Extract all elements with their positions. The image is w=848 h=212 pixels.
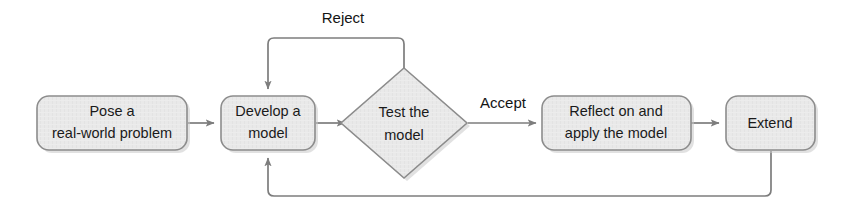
- node-label-line-2: apply the model: [565, 125, 667, 141]
- node-reflect-on-and-apply-the-model[interactable]: Reflect on and apply the model: [542, 96, 694, 153]
- edge-label-reject: Reject: [322, 9, 365, 26]
- node-label-line-1: Develop a: [235, 103, 301, 119]
- node-extend[interactable]: Extend: [726, 96, 818, 153]
- node-test-the-model[interactable]: Test the model: [341, 68, 470, 181]
- node-develop-a-model[interactable]: Develop a model: [221, 96, 318, 153]
- node-label-line-1: Test the: [379, 104, 430, 120]
- edge-extend-to-develop-feedback: [268, 151, 771, 196]
- node-label-line-2: model: [248, 125, 288, 141]
- node-label-line-1: Extend: [747, 115, 792, 131]
- node-label-line-1: Pose a: [89, 103, 135, 119]
- node-label-line-1: Reflect on and: [569, 103, 663, 119]
- node-diamond: [341, 68, 467, 178]
- edge-test-reject-to-develop: [268, 38, 404, 89]
- edge-label-accept: Accept: [480, 94, 527, 111]
- node-label-line-2: model: [384, 127, 424, 143]
- flowchart-diagram: Pose a real-world problem Develop a mode…: [0, 0, 848, 212]
- node-pose-a-real-world-problem[interactable]: Pose a real-world problem: [37, 96, 190, 153]
- node-label-line-2: real-world problem: [52, 125, 172, 141]
- flowchart-canvas: Pose a real-world problem Develop a mode…: [0, 0, 848, 212]
